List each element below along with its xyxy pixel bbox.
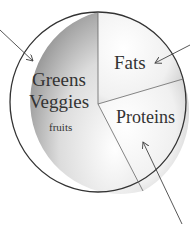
arrow-greens — [0, 30, 33, 61]
label-veggies: Veggies — [29, 92, 89, 111]
food-pie-diagram: Greens Veggies fruits Fats Proteins — [0, 0, 194, 226]
label-greens: Greens — [32, 70, 86, 89]
label-proteins: Proteins — [116, 108, 175, 126]
label-fruits: fruits — [49, 122, 72, 133]
label-fats: Fats — [114, 53, 146, 72]
